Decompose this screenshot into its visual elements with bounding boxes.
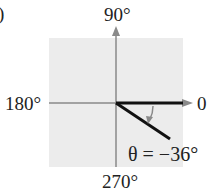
label-0: 0 — [197, 94, 207, 113]
angle-label: θ = −36° — [128, 144, 198, 164]
up-arrowhead-icon — [112, 26, 120, 36]
label-180: 180° — [5, 94, 41, 113]
label-270: 270° — [102, 172, 138, 191]
right-arrowhead-icon — [182, 99, 193, 107]
label-90: 90° — [104, 5, 131, 24]
